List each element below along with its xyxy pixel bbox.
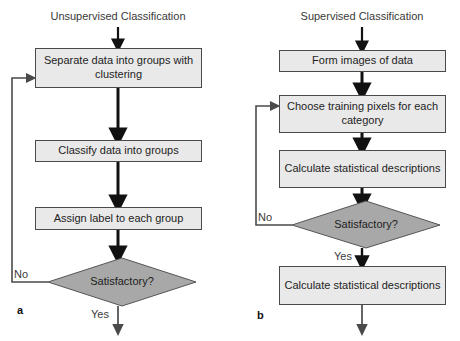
node-u3-label: Assign label to each group [54,212,184,226]
node-s5-calculate-statistical-descriptions[interactable]: Calculate statistical descriptions [279,266,446,305]
edge-label-no-left: No [14,268,28,280]
node-s1-label: Form images of data [312,54,413,68]
panel-a-title: Unsupervised Classification [20,10,216,22]
node-s3-label: Calculate statistical descriptions [285,162,441,176]
edge-label-yes-left: Yes [91,308,109,320]
panel-a-letter: a [17,304,23,316]
edge-label-no-right: No [258,211,272,223]
edge-label-yes-right: Yes [334,250,352,262]
node-s3-calculate-statistical-descriptions[interactable]: Calculate statistical descriptions [279,150,446,188]
node-u1-label: Separate data into groups with clusterin… [40,54,197,82]
edge-u4-to-u1-no-loop [12,78,48,282]
node-s2-label: Choose training pixels for each category [284,100,441,128]
node-u3-assign-label[interactable]: Assign label to each group [35,207,202,230]
decision-s4-satisfactory[interactable] [292,201,440,248]
panel-b-letter: b [257,309,264,321]
node-u2-classify-data[interactable]: Classify data into groups [35,140,202,162]
node-s2-choose-training-pixels[interactable]: Choose training pixels for each category [279,95,446,133]
node-s1-form-images[interactable]: Form images of data [279,50,446,72]
panel-b-title: Supervised Classification [264,10,460,22]
node-u2-label: Classify data into groups [58,144,178,158]
node-u1-separate-data[interactable]: Separate data into groups with clusterin… [35,48,202,88]
decision-u4-satisfactory[interactable] [48,258,196,306]
node-s5-label: Calculate statistical descriptions [285,279,441,293]
